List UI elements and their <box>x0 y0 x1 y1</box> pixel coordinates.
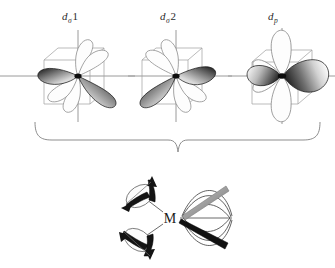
metal-complex: M <box>119 176 232 260</box>
ligand-upper-left <box>121 176 158 212</box>
figure-canvas: dσ1 dσ2 dp <box>0 0 335 268</box>
orbital-nucleus <box>74 73 81 78</box>
grouping-brace <box>35 122 320 152</box>
orbital-nucleus <box>172 73 179 78</box>
ligand-lower-left <box>119 224 156 260</box>
orbital-nucleus <box>278 73 286 79</box>
orbital-d-sigma-1 <box>0 30 135 122</box>
orbital-d-p <box>228 28 335 124</box>
orbital-d-sigma-2 <box>128 30 232 122</box>
orbital-diagram-svg: M <box>0 0 335 268</box>
metal-center-label: M <box>164 211 177 226</box>
